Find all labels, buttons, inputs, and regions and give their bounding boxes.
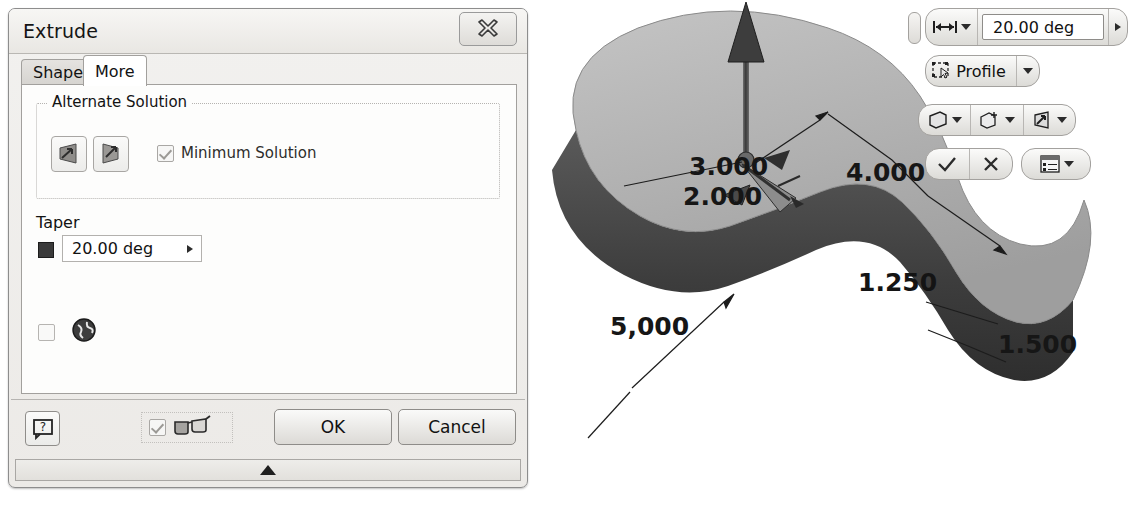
cross-icon — [981, 155, 1001, 173]
chevron-down-glyph — [1023, 68, 1033, 74]
dialog-title: Extrude — [23, 20, 98, 42]
solid-body-button[interactable] — [919, 105, 971, 135]
dim-1500[interactable]: 1.500 — [998, 330, 1077, 359]
taper-direction-button[interactable] — [1024, 105, 1075, 135]
options-pill — [1021, 148, 1091, 180]
dim-5000[interactable]: 5,000 — [610, 312, 689, 341]
svg-text:?: ? — [39, 420, 45, 434]
extra-option-checkbox[interactable] — [38, 324, 55, 341]
chevron-down-icon — [961, 24, 971, 30]
dialog-footer: ? OK Cancel — [11, 399, 525, 458]
minimum-solution-label: Minimum Solution — [181, 144, 316, 162]
alternate-solution-group: Alternate Solution Minimum Solution — [36, 103, 500, 199]
taper-inward-glyph — [98, 142, 124, 166]
chevron-down-icon — [1005, 117, 1015, 123]
chevron-right-glyph — [187, 245, 193, 253]
checkmark-icon — [936, 155, 958, 173]
taper-outward-icon[interactable] — [51, 136, 87, 172]
glasses-preview-icon[interactable] — [172, 415, 212, 441]
taper-inward-icon[interactable] — [93, 136, 129, 172]
minimum-solution-row[interactable]: Minimum Solution — [157, 144, 316, 162]
help-glyph: ? — [32, 418, 54, 440]
close-x-icon — [475, 19, 501, 39]
ok-button[interactable]: OK — [274, 409, 392, 445]
taper-label: Taper — [36, 213, 80, 232]
solid-body-icon — [927, 110, 949, 130]
distance-between-icon[interactable] — [926, 9, 978, 45]
extra-option-row — [38, 317, 97, 347]
close-icon[interactable] — [459, 12, 517, 46]
dim-4000[interactable]: 4.000 — [846, 158, 925, 187]
model-viewport[interactable]: 3.000 2.000 4.000 1.250 1.500 5,000 20.0… — [528, 0, 1133, 506]
chevron-down-icon — [952, 117, 962, 123]
profile-select-pill: Profile — [925, 55, 1040, 87]
dim-1250[interactable]: 1.250 — [858, 268, 937, 297]
minitoolbar-cancel-button[interactable] — [970, 149, 1013, 179]
chevron-down-icon — [1057, 117, 1067, 123]
options-list-icon — [1039, 154, 1061, 174]
taper-input[interactable]: 20.00 deg — [62, 235, 202, 262]
minitoolbar-row-distance: 20.00 deg — [908, 8, 1128, 46]
triangle-up-icon — [260, 465, 276, 475]
drag-grip-icon[interactable] — [908, 12, 921, 44]
distance-value-wrap: 20.00 deg — [978, 9, 1109, 45]
chevron-down-icon — [1064, 161, 1074, 167]
minimum-solution-checkbox[interactable] — [157, 145, 174, 162]
profile-dropdown-icon[interactable] — [1017, 56, 1039, 86]
angle-swatch-icon[interactable] — [38, 242, 54, 258]
cancel-button[interactable]: Cancel — [398, 409, 516, 445]
dim-2000[interactable]: 2.000 — [683, 182, 762, 211]
new-solid-boolean-icon — [978, 110, 1002, 130]
select-profile-icon — [932, 62, 952, 80]
extrude-dialog: Extrude Shape More Alternate Solution — [8, 8, 528, 488]
distance-next-icon[interactable] — [1109, 9, 1127, 45]
distance-between-glyph — [932, 19, 958, 35]
minitoolbar-row-operations — [918, 104, 1076, 136]
taper-outward-glyph — [56, 142, 82, 166]
confirm-pill — [925, 148, 1013, 180]
distance-input[interactable]: 20.00 deg — [982, 14, 1104, 40]
taper-value: 20.00 deg — [63, 239, 179, 258]
extruded-peanut-solid[interactable] — [528, 0, 1133, 506]
new-solid-boolean-button[interactable] — [971, 105, 1023, 135]
more-tab-panel: Alternate Solution Minimum Solution — [21, 84, 517, 394]
glasses-glyph — [172, 415, 212, 437]
preview-toggle-group[interactable] — [141, 412, 233, 443]
dialog-tabs: Shape More — [21, 55, 515, 85]
profile-label: Profile — [952, 62, 1010, 81]
preview-checkbox[interactable] — [149, 419, 166, 436]
minitoolbar-ok-button[interactable] — [926, 149, 970, 179]
chevron-right-glyph — [1115, 23, 1121, 31]
tab-more-label: More — [95, 62, 135, 81]
globe-glyph — [71, 317, 97, 343]
distance-pill: 20.00 deg — [925, 8, 1128, 46]
chevron-right-icon[interactable] — [179, 245, 201, 253]
tab-shape-label: Shape — [33, 63, 83, 82]
expand-statusbar[interactable] — [15, 459, 521, 481]
taper-direction-icon — [1032, 110, 1054, 130]
dim-3000[interactable]: 3.000 — [689, 152, 768, 181]
select-profile-button[interactable]: Profile — [926, 56, 1017, 86]
dialog-titlebar[interactable]: Extrude — [9, 9, 527, 54]
help-question-icon[interactable]: ? — [25, 411, 60, 446]
globe-icon[interactable] — [71, 317, 97, 347]
options-list-button[interactable] — [1022, 149, 1090, 179]
tab-more[interactable]: More — [83, 55, 147, 86]
alternate-solution-label: Alternate Solution — [47, 93, 192, 111]
